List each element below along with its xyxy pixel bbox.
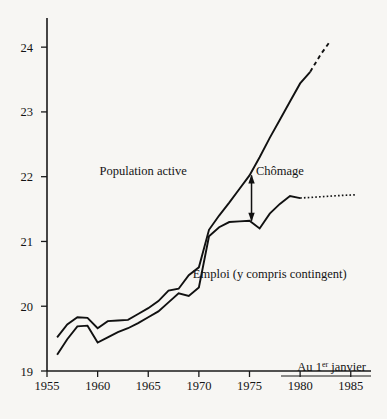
series-line-population-active bbox=[57, 72, 310, 338]
series-group bbox=[57, 41, 355, 355]
y-tick-label-21: 21 bbox=[21, 235, 34, 249]
annotation-group: Population activeChômageEmploi (y compri… bbox=[100, 164, 347, 281]
axis-note: Au 1er janvier bbox=[281, 360, 371, 377]
axis-note-suffix: janvier bbox=[328, 360, 367, 374]
series-projection-population-active bbox=[310, 41, 330, 72]
axis-note-prefix: Au 1 bbox=[297, 360, 322, 374]
y-axis-ticks: 192021222324 bbox=[21, 41, 48, 379]
gap-arrow bbox=[248, 174, 254, 221]
annotation-chomage: Chômage bbox=[256, 164, 304, 178]
x-tick-label-1955: 1955 bbox=[35, 379, 60, 393]
y-tick-label-19: 19 bbox=[21, 365, 34, 379]
x-tick-label-1965: 1965 bbox=[136, 379, 161, 393]
y-tick-label-24: 24 bbox=[21, 41, 34, 55]
y-tick-label-20: 20 bbox=[21, 300, 34, 314]
annotation-emploi: Emploi (y compris contingent) bbox=[193, 267, 347, 281]
annotation-population-active: Population active bbox=[100, 164, 188, 178]
x-tick-label-1970: 1970 bbox=[186, 379, 211, 393]
line-chart: 192021222324 195519601965197019751980198… bbox=[0, 0, 387, 419]
axis-note-text: Au 1er janvier bbox=[297, 360, 367, 375]
x-axis-ticks: 1955196019651970197519801985 bbox=[35, 371, 364, 393]
x-tick-label-1985: 1985 bbox=[338, 379, 363, 393]
x-tick-label-1975: 1975 bbox=[237, 379, 262, 393]
series-projection-emploi bbox=[300, 195, 355, 198]
x-tick-label-1960: 1960 bbox=[85, 379, 110, 393]
y-tick-label-22: 22 bbox=[21, 170, 34, 184]
x-tick-label-1980: 1980 bbox=[288, 379, 313, 393]
y-tick-label-23: 23 bbox=[21, 105, 34, 119]
figure-container: 192021222324 195519601965197019751980198… bbox=[0, 0, 387, 419]
